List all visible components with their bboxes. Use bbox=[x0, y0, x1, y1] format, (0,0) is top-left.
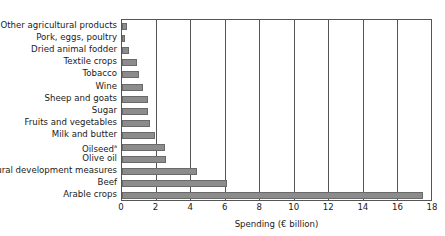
x-tick-label: 14 bbox=[353, 202, 373, 212]
category-label: Dried animal fodder bbox=[31, 44, 117, 54]
bar bbox=[122, 180, 227, 187]
category-label: Pork, eggs, poultry bbox=[36, 32, 117, 42]
bar bbox=[122, 59, 137, 66]
x-tick-label: 8 bbox=[249, 202, 269, 212]
x-tick-label: 6 bbox=[215, 202, 235, 212]
gridline bbox=[397, 20, 398, 200]
gridline bbox=[259, 20, 260, 200]
category-label: Textile crops bbox=[64, 56, 117, 66]
bar bbox=[122, 108, 148, 115]
x-tick-label: 4 bbox=[180, 202, 200, 212]
category-label: Rural development measures bbox=[0, 165, 117, 175]
category-label: Milk and butter bbox=[52, 129, 117, 139]
category-label: Beef bbox=[98, 177, 118, 187]
x-axis-label: Spending (€ billion) bbox=[121, 219, 432, 229]
x-tick-label: 10 bbox=[284, 202, 304, 212]
category-label: Oilseeda bbox=[82, 141, 117, 154]
bar bbox=[122, 47, 129, 54]
category-label: Olive oil bbox=[82, 153, 117, 163]
bar bbox=[122, 96, 148, 103]
category-label: Fruits and vegetables bbox=[24, 117, 117, 127]
bar bbox=[122, 120, 150, 127]
gridline bbox=[363, 20, 364, 200]
gridline bbox=[225, 20, 226, 200]
bar bbox=[122, 144, 165, 151]
bar bbox=[122, 156, 166, 163]
bar bbox=[122, 132, 155, 139]
bar-chart: Other agricultural productsPork, eggs, p… bbox=[0, 0, 445, 236]
bar bbox=[122, 84, 143, 91]
bar bbox=[122, 192, 423, 199]
footnote-marker: a bbox=[114, 143, 117, 149]
bar bbox=[122, 71, 139, 78]
gridline bbox=[328, 20, 329, 200]
x-tick-label: 0 bbox=[111, 202, 131, 212]
category-label: Tobacco bbox=[83, 68, 117, 78]
category-label: Sheep and goats bbox=[45, 93, 117, 103]
category-label: Arable crops bbox=[63, 189, 117, 199]
gridline bbox=[294, 20, 295, 200]
x-tick-label: 12 bbox=[318, 202, 338, 212]
bar bbox=[122, 23, 127, 30]
bar bbox=[122, 35, 125, 42]
plot-area bbox=[121, 19, 432, 201]
category-label: Sugar bbox=[92, 105, 117, 115]
category-label: Wine bbox=[96, 81, 117, 91]
x-tick-label: 18 bbox=[422, 202, 442, 212]
x-tick-label: 16 bbox=[387, 202, 407, 212]
category-label: Other agricultural products bbox=[0, 20, 117, 30]
bar bbox=[122, 168, 197, 175]
x-tick-label: 2 bbox=[146, 202, 166, 212]
